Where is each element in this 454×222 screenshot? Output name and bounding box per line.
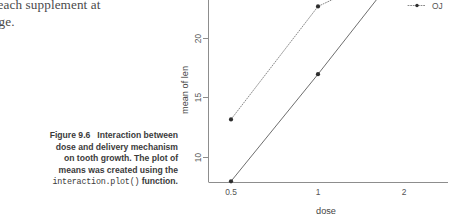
x-axis-title: dose [316, 206, 336, 216]
series-markers-VC [229, 0, 406, 183]
y-tick-label-20: 20 [193, 34, 203, 44]
legend-marker-OJ [415, 4, 418, 7]
series-markers-OJ [229, 0, 406, 121]
y-tick-label-10: 10 [193, 153, 203, 163]
plot-svg: 20 15 10 mean of len 0.5 1 2 dose VC [176, 0, 454, 222]
caption-line-5: function. [142, 176, 178, 186]
x-tick-label-1: 1 [316, 187, 321, 197]
x-axis-ticks: 0.5 1 2 [225, 187, 406, 197]
y-tick-label-15: 15 [193, 93, 203, 103]
caption-line-1: Interaction between [97, 130, 178, 140]
caption-line-3: on tooth growth. The plot of [2, 153, 178, 165]
figure-caption: Figure 9.6Interaction between dose and d… [2, 130, 178, 189]
caption-line-2: dose and delivery mechanism [2, 142, 178, 154]
interaction-plot: 20 15 10 mean of len 0.5 1 2 dose VC [176, 0, 454, 222]
data-point-VC-1 [316, 72, 320, 76]
series-group [229, 0, 406, 183]
caption-line-4: means was created using the [2, 165, 178, 177]
caption-code-reference: interaction.plot() [52, 177, 139, 187]
y-axis-ticks: 20 15 10 [193, 34, 209, 163]
data-point-OJ-1 [316, 4, 320, 8]
y-axis-title: mean of len [180, 66, 190, 114]
page-body-text: gth for each supplement at ch dosage. [0, 0, 168, 30]
data-point-OJ-0.5 [229, 117, 233, 121]
legend-label-OJ: OJ [432, 1, 443, 11]
series-line-OJ [231, 0, 404, 119]
series-line-VC [231, 0, 404, 181]
plot-legend: VC OJ [408, 0, 444, 11]
x-tick-label-2: 2 [402, 187, 407, 197]
figure-number: Figure 9.6 [50, 130, 91, 140]
data-point-VC-0.5 [229, 179, 233, 183]
x-tick-label-0: 0.5 [225, 187, 237, 197]
